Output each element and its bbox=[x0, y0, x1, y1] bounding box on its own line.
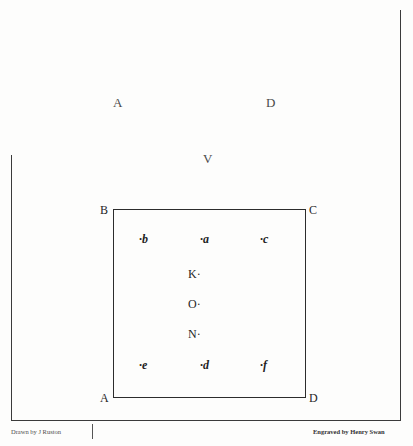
credit-divider-tick bbox=[92, 424, 93, 439]
point-label-n: N· bbox=[188, 328, 201, 340]
point-label-d: ·d bbox=[200, 359, 209, 371]
point-label-b: ·b bbox=[139, 233, 148, 245]
credit-drawn-by: Drawn by J Ruston bbox=[11, 429, 61, 436]
corner-label-b: B bbox=[100, 204, 108, 216]
corner-label-c: C bbox=[309, 204, 317, 216]
corner-label-a: A bbox=[100, 392, 109, 404]
outer-label-v: V bbox=[203, 152, 212, 165]
credit-engraved-by: Engraved by Henry Swan bbox=[313, 429, 385, 436]
outer-label-d: D bbox=[266, 96, 275, 109]
engraved-plate: A D V B C A D ·b ·a ·c K· O· N· ·e ·d ·f… bbox=[0, 0, 413, 446]
corner-label-d: D bbox=[309, 392, 318, 404]
point-label-a: ·a bbox=[200, 233, 209, 245]
point-label-k: K· bbox=[188, 268, 201, 280]
point-label-e: ·e bbox=[139, 359, 147, 371]
frame-right-rule bbox=[400, 10, 401, 421]
outer-label-a: A bbox=[113, 96, 122, 109]
frame-bottom-rule bbox=[11, 420, 401, 421]
point-label-o: O· bbox=[188, 298, 201, 310]
point-label-f: ·f bbox=[260, 359, 267, 371]
point-label-c: ·c bbox=[260, 233, 268, 245]
frame-left-rule bbox=[11, 155, 12, 421]
